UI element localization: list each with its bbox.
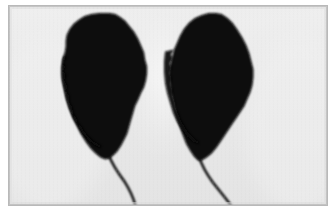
- leaf-silhouette-illustration: [9, 6, 327, 205]
- photograph-canvas: [9, 6, 327, 205]
- screenshot-root: Two dark leaf silhouettes with slender s…: [0, 0, 336, 221]
- photograph-frame: [8, 5, 328, 206]
